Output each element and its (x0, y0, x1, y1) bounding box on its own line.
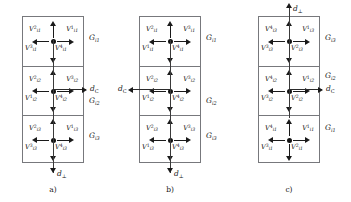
panel-c-dc-label: dC (326, 85, 335, 94)
panel-a-group-label-1: Gi1 (89, 34, 100, 43)
panel-b: V2i1 V3i1 V1i1 V4i1 V2i2 (117, 0, 234, 202)
cell-label-top-left: V2i1 (29, 26, 41, 34)
arrow-right-icon (57, 91, 70, 92)
panel-c-spine (289, 8, 290, 118)
panel-a: V2i1 V1i1 V3i1 V4i1 V2i2 (0, 0, 117, 202)
panel-c: V4i3 V1i3 V3i3 V2i3 V4i2 (234, 0, 351, 202)
cell-label-bottom-left: V1i1 (142, 45, 154, 53)
cell-label-bottom-left: V3i1 (25, 45, 37, 53)
arrow-right-icon (174, 91, 187, 92)
panel-b-group-label-1: Gi1 (206, 34, 217, 43)
cell-label-top-right: V3i2 (183, 76, 195, 84)
cell-label-top-left: V4i1 (265, 125, 277, 133)
panel-c-caption: c) (269, 186, 309, 194)
arrow-left-icon (36, 91, 49, 92)
panel-c-group-label-2: Gi2 (325, 72, 336, 81)
cell-label-top-right: V3i1 (183, 26, 195, 34)
arrow-right-icon (174, 41, 187, 42)
cell-label-top-left: V4i3 (265, 26, 277, 34)
cell-label-top-right: V1i1 (66, 26, 78, 34)
arrow-up-icon (53, 25, 54, 38)
cell-label-bottom-right: V4i1 (172, 45, 184, 53)
arrow-right-icon (293, 41, 306, 42)
cell-label-bottom-left: V3i3 (25, 144, 37, 152)
figure-three-panel-cell-diagram: V2i1 V1i1 V3i1 V4i1 V2i2 (0, 0, 351, 202)
arrow-left-icon (272, 91, 285, 92)
panel-c-cell-3: V4i1 V1i1 V3i1 V2i1 (259, 115, 319, 164)
arrow-right-icon (293, 91, 306, 92)
panel-c-dc-arrowhead (318, 87, 323, 93)
panel-a-spine (53, 40, 54, 173)
arrow-up-icon (289, 123, 290, 136)
panel-a-group-label-3: Gi3 (89, 132, 100, 141)
cell-label-top-left: V2i2 (146, 76, 158, 84)
arrow-left-icon (36, 140, 49, 141)
panel-a-dperp-label: d⊥ (57, 170, 67, 179)
node-dot (287, 138, 292, 143)
panel-c-dperp-label: d⊥ (293, 5, 303, 14)
panel-b-dperp-label: d⊥ (174, 170, 184, 179)
cell-label-top-left: V2i2 (29, 76, 41, 84)
cell-label-top-right: V3i2 (66, 76, 78, 84)
cell-label-bottom-left: V3i1 (261, 144, 273, 152)
cell-label-top-left: V2i3 (29, 125, 41, 133)
panel-b-caption: b) (150, 186, 190, 194)
cell-label-top-left: V2i3 (146, 125, 158, 133)
panel-c-group-label-3: Gi1 (325, 124, 336, 133)
cell-label-top-right: V3i3 (183, 125, 195, 133)
panel-b-dc-line (132, 89, 170, 90)
cell-label-bottom-right: V4i2 (55, 95, 67, 103)
cell-label-top-right: V1i3 (302, 26, 314, 34)
arrow-left-icon (153, 140, 166, 141)
panel-b-group-label-3: Gi3 (206, 132, 217, 141)
cell-label-bottom-right: V4i3 (172, 144, 184, 152)
cell-label-top-left: V4i2 (265, 76, 277, 84)
panel-b-spine (170, 40, 171, 173)
cell-label-bottom-left: V3i2 (261, 95, 273, 103)
arrow-right-icon (293, 140, 306, 141)
arrow-left-icon (153, 91, 166, 92)
cell-label-top-right: V1i1 (302, 125, 314, 133)
panel-c-dperp-arrowhead (286, 3, 292, 8)
panel-b-dc-label: dC (118, 85, 127, 94)
panel-a-dc-arrowhead (82, 87, 87, 93)
cell-label-bottom-right: V4i2 (172, 95, 184, 103)
cell-label-top-right: V1i2 (302, 76, 314, 84)
cell-label-bottom-left: V1i2 (142, 95, 154, 103)
cell-label-bottom-right: V2i3 (291, 45, 303, 53)
arrow-down-icon (289, 144, 290, 157)
cell-label-bottom-right: V4i1 (55, 45, 67, 53)
arrow-right-icon (57, 41, 70, 42)
cell-label-bottom-left: V3i3 (261, 45, 273, 53)
panel-c-group-label-1: Gi3 (325, 34, 336, 43)
panel-a-dperp-arrowhead (50, 168, 56, 173)
panel-b-dc-arrowhead (128, 87, 133, 93)
panel-b-group-label-2: Gi2 (206, 97, 217, 106)
panel-b-dperp-arrowhead (167, 168, 173, 173)
arrow-left-icon (36, 41, 49, 42)
cell-label-bottom-right: V2i1 (291, 144, 303, 152)
cell-label-top-left: V2i1 (146, 26, 158, 34)
arrow-right-icon (174, 140, 187, 141)
arrow-up-icon (170, 25, 171, 38)
cell-label-bottom-right: V2i2 (291, 95, 303, 103)
panel-a-dc-label: dC (90, 85, 99, 94)
arrow-left-icon (272, 41, 285, 42)
arrow-right-icon (57, 140, 70, 141)
cell-label-top-right: V1i3 (66, 125, 78, 133)
cell-label-bottom-left: V1i2 (25, 95, 37, 103)
arrow-left-icon (153, 41, 166, 42)
arrow-left-icon (272, 140, 285, 141)
cell-label-bottom-right: V4i3 (55, 144, 67, 152)
panel-a-caption: a) (33, 186, 73, 194)
cell-label-bottom-left: V1i3 (142, 144, 154, 152)
panel-a-group-label-2: Gi2 (89, 97, 100, 106)
